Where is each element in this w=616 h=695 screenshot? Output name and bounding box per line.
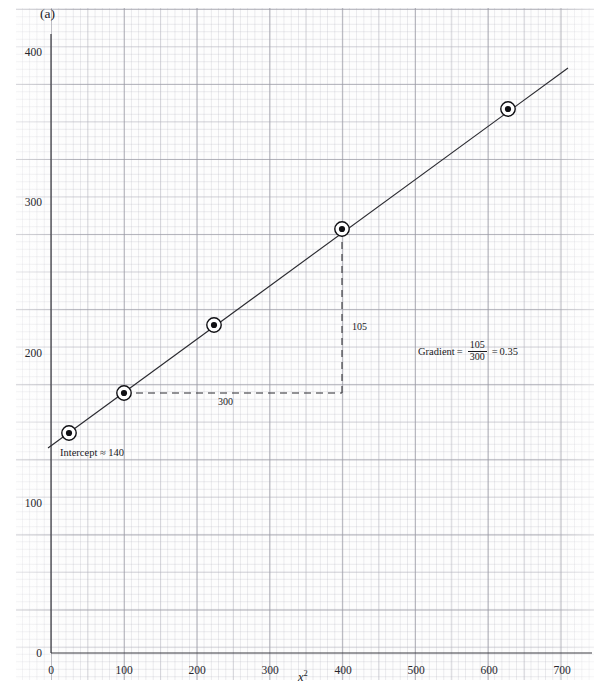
y-tick-label-400: 400 <box>14 46 42 58</box>
x-tick-label-600: 600 <box>480 664 497 676</box>
gradient-fraction: 105 300 <box>468 340 487 362</box>
x-axis-title-exponent: 2 <box>304 668 308 678</box>
x-axis-title: x2 <box>298 668 308 685</box>
gradient-equals-1: = <box>457 346 463 357</box>
gradient-lead-text: Gradient <box>418 346 455 357</box>
y-tick-label-200: 200 <box>14 347 42 359</box>
x-tick-label-500: 500 <box>407 664 424 676</box>
gradient-denominator: 300 <box>468 352 487 363</box>
gradient-calculation-annotation: Gradient = 105 300 = 0.35 <box>418 340 518 362</box>
x-tick-label-0: 0 <box>48 664 54 676</box>
gradient-result: 0.35 <box>500 346 518 357</box>
gradient-equals-2: = <box>492 346 498 357</box>
data-point-2 <box>117 386 131 400</box>
plot-canvas <box>0 0 616 695</box>
intercept-annotation: Intercept ≈ 140 <box>60 447 124 458</box>
gradient-numerator: 105 <box>468 340 487 351</box>
x-tick-label-400: 400 <box>334 664 351 676</box>
data-point-1 <box>62 426 76 440</box>
x-tick-label-300: 300 <box>261 664 278 676</box>
x-tick-label-700: 700 <box>553 664 570 676</box>
panel-label: (a) <box>40 6 55 22</box>
data-point-5 <box>501 102 515 116</box>
x-tick-label-200: 200 <box>188 664 205 676</box>
figure-root: (a) 400 300 200 100 0 0 100 200 300 400 … <box>0 0 616 695</box>
y-tick-label-300: 300 <box>14 196 42 208</box>
run-label: 300 <box>218 396 233 407</box>
data-point-3 <box>207 318 221 332</box>
x-tick-label-100: 100 <box>115 664 132 676</box>
y-tick-label-100: 100 <box>14 497 42 509</box>
rise-label: 105 <box>352 321 367 332</box>
data-point-4 <box>335 222 349 236</box>
y-tick-label-0: 0 <box>14 647 42 659</box>
